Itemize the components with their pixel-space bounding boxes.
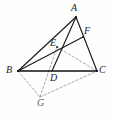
point-label-B: B <box>6 65 12 75</box>
point-label-F: F <box>84 26 90 36</box>
vertex-dot-E <box>56 46 58 48</box>
geometry-figure: A B C D E F G <box>0 0 113 120</box>
vertex-dot-F <box>82 36 84 38</box>
point-label-D: D <box>50 73 57 83</box>
vertex-dot-C <box>96 70 98 72</box>
vertex-dot-A <box>75 16 77 18</box>
vertex-dot-B <box>17 70 19 72</box>
point-label-A: A <box>71 3 77 13</box>
segment-BG <box>18 71 40 97</box>
dashed-edge-group <box>18 47 97 97</box>
segment-AB <box>18 17 76 71</box>
segment-EC <box>57 47 97 71</box>
point-label-G: G <box>37 98 44 108</box>
geometry-canvas <box>0 0 113 120</box>
segment-GC <box>40 71 97 97</box>
point-label-C: C <box>99 65 106 75</box>
point-label-E: E <box>50 38 56 48</box>
